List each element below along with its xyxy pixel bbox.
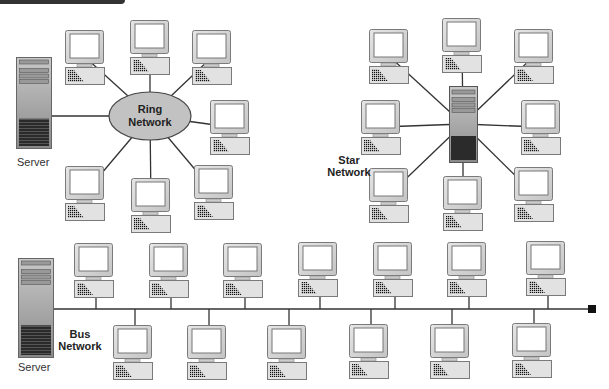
- monitor-stand: [381, 63, 396, 66]
- star-computer-icon: [515, 30, 554, 84]
- monitor-stand: [381, 202, 396, 205]
- bus-computer-icon: [513, 324, 552, 378]
- screen: [452, 246, 481, 270]
- drive-bay: [452, 103, 475, 107]
- screen: [378, 246, 407, 270]
- screen: [374, 33, 403, 57]
- screen: [374, 172, 403, 196]
- monitor-stand: [77, 64, 92, 67]
- server-vent: [19, 119, 49, 146]
- bus-computer-icon: [448, 243, 487, 297]
- drive-bay: [22, 270, 51, 274]
- screen: [215, 104, 244, 128]
- screen: [519, 33, 548, 57]
- screen: [154, 247, 183, 271]
- ring-computer-icon: [195, 166, 234, 220]
- monitor-stand: [538, 275, 553, 278]
- star-computer-icon: [370, 30, 409, 84]
- monitor-stand: [524, 357, 539, 360]
- star-computer-icon: [362, 101, 401, 155]
- ring-label-line2: Network: [115, 116, 185, 129]
- screen: [135, 24, 164, 48]
- bus-network-label: Bus Network: [56, 328, 104, 352]
- screen: [118, 329, 147, 353]
- screen: [354, 328, 383, 352]
- screen: [517, 327, 546, 351]
- bus-computer-icon: [268, 326, 307, 380]
- screen: [228, 247, 257, 271]
- bus-terminator: [588, 305, 596, 313]
- bus-label-line2: Network: [56, 340, 104, 352]
- monitor-stand: [526, 63, 541, 66]
- drive-bay: [452, 98, 475, 102]
- bus-computer-icon: [350, 325, 389, 379]
- ring-computer-icon: [211, 101, 250, 155]
- screen: [197, 34, 226, 58]
- star-hub-server-icon: [450, 87, 478, 163]
- ring-computer-icon: [66, 31, 105, 85]
- screen: [448, 180, 477, 204]
- screen: [366, 104, 395, 128]
- screen: [526, 104, 555, 128]
- ring-label-line1: Ring: [115, 103, 185, 116]
- screen: [136, 182, 165, 206]
- monitor-stand: [442, 358, 457, 361]
- network-topologies-diagram: Ring Network Server Star Network Bus Net…: [0, 0, 609, 389]
- bus-computer-icon: [114, 326, 153, 380]
- screen: [70, 34, 99, 58]
- monitor-stand: [385, 276, 400, 279]
- ring-server-icon: [17, 58, 52, 149]
- bus-computer-icon: [431, 325, 470, 379]
- monitor-stand: [310, 276, 325, 279]
- monitor-stand: [199, 359, 214, 362]
- monitor-stand: [373, 134, 388, 137]
- monitor-stand: [454, 52, 469, 55]
- star-network-label: Star Network: [326, 154, 372, 178]
- ring-computer-icon: [132, 179, 171, 233]
- drive-bay: [22, 261, 51, 265]
- monitor-stand: [77, 200, 92, 203]
- bus-computer-icon: [150, 244, 189, 298]
- screen: [70, 170, 99, 194]
- bus-computer-icon: [75, 244, 114, 298]
- bus-computer-icon: [299, 243, 338, 297]
- monitor-stand: [235, 277, 250, 280]
- star-label-line2: Network: [326, 166, 372, 178]
- bus-computer-icon: [374, 243, 413, 297]
- monitor-stand: [161, 277, 176, 280]
- drive-bay: [22, 275, 51, 279]
- monitor-stand: [125, 359, 140, 362]
- monitor-stand: [533, 134, 548, 137]
- monitor-stand: [143, 212, 158, 215]
- drive-bay: [20, 80, 49, 84]
- drive-bay: [20, 74, 49, 78]
- drive-bay: [22, 281, 51, 285]
- ring-server-label: Server: [17, 156, 49, 168]
- screen: [435, 328, 464, 352]
- ring-computer-icon: [131, 21, 170, 75]
- star-computer-icon: [444, 177, 483, 231]
- server-vent: [21, 325, 51, 355]
- star-computer-icon: [370, 169, 409, 223]
- monitor-stand: [204, 64, 219, 67]
- monitor-stand: [455, 210, 470, 213]
- monitor-stand: [86, 277, 101, 280]
- screen: [531, 245, 560, 269]
- monitor-stand: [361, 358, 376, 361]
- bus-computer-icon: [188, 326, 227, 380]
- hub-dark-panel: [451, 136, 476, 160]
- drive-bay: [20, 69, 49, 73]
- screen: [272, 329, 301, 353]
- monitor-stand: [279, 359, 294, 362]
- screen: [303, 246, 332, 270]
- drive-bay: [452, 90, 475, 94]
- ring-computer-icon: [193, 31, 232, 85]
- monitor-stand: [526, 201, 541, 204]
- monitor-stand: [142, 54, 157, 57]
- bus-server-icon: [19, 259, 54, 358]
- screen: [519, 171, 548, 195]
- drive-bay: [20, 60, 49, 64]
- bus-server-label: Server: [18, 361, 50, 373]
- bus-computer-icon: [224, 244, 263, 298]
- drive-bay: [452, 109, 475, 113]
